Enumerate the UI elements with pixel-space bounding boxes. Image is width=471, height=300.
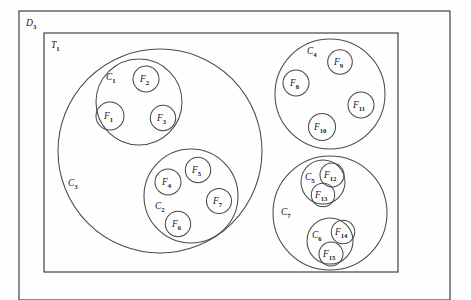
leaf-label-f1: F1 <box>103 111 113 123</box>
leaf-label-f2: F2 <box>139 74 150 86</box>
cluster-circle-c3 <box>58 49 262 253</box>
leaf-label-f11: F11 <box>352 100 365 112</box>
leaf-label-f8: F8 <box>289 78 300 90</box>
leaf-label-f15: F15 <box>322 249 336 261</box>
leaf-label-f10: F10 <box>313 122 327 134</box>
cluster-label-c5: C5 <box>305 172 315 184</box>
cluster-label-c4: C4 <box>307 46 317 58</box>
leaf-label-f6: F6 <box>171 219 182 231</box>
nested-set-diagram: D3T1C3C1C2C4C7C5C6F1F2F3F4F5F6F7F8F9F10F… <box>0 0 471 300</box>
leaf-label-f12: F12 <box>323 170 337 182</box>
leaf-label-f3: F3 <box>156 113 167 125</box>
outer-domain-rect <box>19 11 450 300</box>
region-label-d3: D3 <box>25 17 37 30</box>
leaf-label-f9: F9 <box>333 57 344 69</box>
cluster-label-c3: C3 <box>68 178 78 190</box>
outer-region-layer <box>19 11 450 300</box>
cluster-label-c2: C2 <box>155 201 165 213</box>
leaf-label-f5: F5 <box>191 165 202 177</box>
cluster-label-c6: C6 <box>312 230 322 242</box>
leaf-label-f14: F14 <box>334 227 348 239</box>
figure-root: D3T1C3C1C2C4C7C5C6F1F2F3F4F5F6F7F8F9F10F… <box>0 0 471 300</box>
leaf-label-f13: F13 <box>314 190 328 202</box>
cluster-circle-c2 <box>144 149 238 243</box>
region-label-t1: T1 <box>51 39 60 52</box>
cluster-label-c7: C7 <box>281 207 291 219</box>
cluster-label-c1: C1 <box>106 72 116 84</box>
leaf-label-f7: F7 <box>212 196 223 208</box>
leaf-label-f4: F4 <box>161 177 172 189</box>
